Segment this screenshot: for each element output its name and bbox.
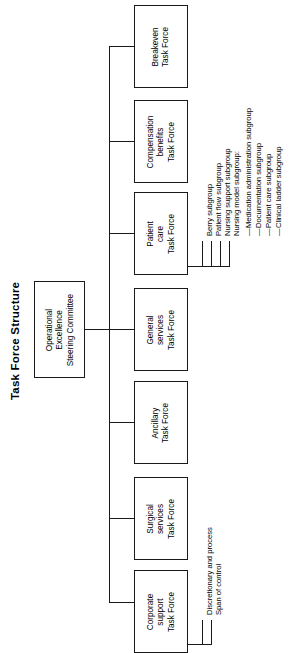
compensation-line-1: Compensation <box>146 115 155 168</box>
node-patient-care-task-force[interactable]: Patient care Task Force <box>134 192 188 275</box>
root-line-2: Excellence <box>54 310 63 350</box>
breakeven-line-2: Task Force <box>161 26 170 66</box>
connector-notes-tick-2 <box>211 620 212 645</box>
subgroup-label-nursing-support: Nursing support subgroup <box>224 149 232 236</box>
connector-subgroup-tick-1 <box>202 241 203 254</box>
connector-subgroup-tick-2 <box>211 241 212 267</box>
general-services-line-2: services <box>156 314 165 344</box>
nursing-model-label-documentation: Documentation subgroup <box>255 143 263 228</box>
patient-care-line-1: Patient <box>146 221 155 247</box>
nursing-model-dash-1: — <box>245 228 253 236</box>
nursing-model-label-clinical-ladder: Clinical ladder subgroup <box>275 147 283 228</box>
node-label: Compensation benefits Task Force <box>146 115 177 168</box>
compensation-line-2: benefits <box>156 127 165 156</box>
connector-subgroup-tick-3 <box>220 241 221 267</box>
node-label: Surgical services Task Force <box>146 498 177 538</box>
node-label: General services Task Force <box>146 309 177 349</box>
nursing-model-label-patient-care: Patient care subgroup <box>265 154 273 228</box>
nursing-model-dash-2: — <box>255 228 263 236</box>
node-label: Corporate support Task Force <box>146 591 177 631</box>
subgroup-label-nursing-model: Nursing model subgroup: <box>233 151 241 236</box>
connector-corporate-support-to-notes <box>188 644 202 645</box>
surgical-services-line-2: services <box>156 503 165 533</box>
corporate-support-line-2: support <box>156 598 165 625</box>
surgical-services-line-3: Task Force <box>166 498 175 538</box>
connector-trunk-to-compensation <box>109 141 134 142</box>
subgroup-label-patient-flow: Patient flow subgroup <box>215 163 223 236</box>
root-line-1: Operational <box>44 308 53 350</box>
breakeven-line-1: Breakeven <box>151 27 160 66</box>
subgroup-label-berry: Berry subgroup <box>206 184 214 236</box>
page-title: Task Force Structure <box>9 282 21 400</box>
note-label-discretionary-and-process: Discretionary and process <box>206 527 214 615</box>
general-services-line-1: General <box>146 315 155 344</box>
patient-care-line-3: Task Force <box>166 213 175 253</box>
node-surgical-services-task-force[interactable]: Surgical services Task Force <box>134 477 188 560</box>
connector-subgroup-baseline <box>202 266 230 267</box>
connector-subgroup-tick-4 <box>229 241 230 267</box>
node-label: Patient care Task Force <box>146 213 177 253</box>
ancillary-line-1: Ancillary <box>151 407 160 438</box>
surgical-services-line-1: Surgical <box>146 504 155 534</box>
nursing-model-label-medication-administration: Medication administration subgroup <box>245 108 253 228</box>
node-label: Operational Excellence Steering Committe… <box>44 293 75 365</box>
connector-patient-care-to-subgroups <box>188 266 202 267</box>
nursing-model-dash-3: — <box>265 228 273 236</box>
corporate-support-line-1: Corporate <box>146 593 155 629</box>
ancillary-line-2: Task Force <box>161 402 170 442</box>
node-breakeven-task-force[interactable]: Breakeven Task Force <box>134 5 188 88</box>
general-services-line-3: Task Force <box>166 309 175 349</box>
connector-trunk-to-breakeven <box>109 46 134 47</box>
connector-notes-tick-1 <box>202 620 203 645</box>
note-label-span-of-control: Span of control <box>215 564 223 615</box>
compensation-line-3: Task Force <box>166 121 175 161</box>
connector-trunk-to-corporate-support <box>109 602 134 603</box>
patient-care-line-2: care <box>156 226 165 242</box>
node-corporate-support-task-force[interactable]: Corporate support Task Force <box>134 570 188 653</box>
node-operational-excellence-steering-committee[interactable]: Operational Excellence Steering Committe… <box>34 281 85 378</box>
node-compensation-benefits-task-force[interactable]: Compensation benefits Task Force <box>134 100 188 183</box>
corporate-support-line-3: Task Force <box>166 591 175 631</box>
connector-trunk-to-ancillary <box>109 422 134 423</box>
connector-root-to-trunk <box>85 329 109 330</box>
node-label: Breakeven Task Force <box>151 26 172 66</box>
nursing-model-dash-4: — <box>275 228 283 236</box>
node-general-services-task-force[interactable]: General services Task Force <box>134 288 188 371</box>
node-ancillary-task-force[interactable]: Ancillary Task Force <box>134 381 188 464</box>
connector-trunk-to-patient-care <box>109 233 134 234</box>
node-label: Ancillary Task Force <box>151 402 172 442</box>
connector-trunk-to-general-services <box>109 329 134 330</box>
connector-trunk-to-surgical-services <box>109 518 134 519</box>
connector-notes-baseline <box>202 644 212 645</box>
root-line-3: Steering Committee <box>65 293 74 365</box>
